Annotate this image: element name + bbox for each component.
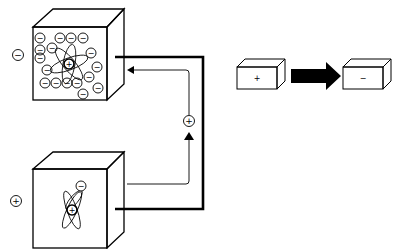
electron-symbol: − xyxy=(68,34,75,43)
moving-charge-symbol: + xyxy=(185,116,193,126)
bottom-cube-positive: + − xyxy=(33,152,124,248)
electron-symbol: − xyxy=(95,84,102,93)
top-cube-negative: −−−−−−−−−−−−−−−−− + xyxy=(33,9,124,100)
nucleus-symbol: + xyxy=(69,206,76,215)
electron-symbol: − xyxy=(80,90,87,99)
electron-symbol: − xyxy=(94,63,101,72)
charge-transfer-diagram: −−−−−−−−−−−−−−−−− + − + − + xyxy=(0,0,401,249)
top-cube-outside-label: − xyxy=(13,50,24,61)
electron-symbol: − xyxy=(37,34,44,43)
nucleus-symbol: + xyxy=(66,60,73,69)
arrowhead-up-icon xyxy=(184,132,194,140)
positive-box-label: + xyxy=(254,74,261,83)
electron-symbol: − xyxy=(57,34,64,43)
arrowhead-left-icon xyxy=(127,66,134,74)
charge-flow-path: + xyxy=(127,66,195,184)
electron-symbol: − xyxy=(80,34,87,43)
positive-charge-label: + xyxy=(12,196,20,206)
transfer-arrow-icon xyxy=(291,62,341,90)
electron-symbol: − xyxy=(37,46,44,55)
electron-symbol: − xyxy=(44,66,51,75)
electron-symbol: − xyxy=(53,79,60,88)
legend-from-box: + xyxy=(237,59,285,89)
electron-symbol: − xyxy=(78,182,85,191)
negative-box-label: − xyxy=(360,74,367,83)
electron-symbol: − xyxy=(86,73,93,82)
conductor-wire xyxy=(115,57,203,209)
legend-to-box: − xyxy=(343,59,391,89)
negative-charge-label: − xyxy=(14,50,22,60)
bottom-cube-outside-label: + xyxy=(11,196,22,207)
electron-symbol: − xyxy=(42,79,49,88)
electron-symbol: − xyxy=(88,49,95,58)
electron-symbol: − xyxy=(49,44,56,53)
